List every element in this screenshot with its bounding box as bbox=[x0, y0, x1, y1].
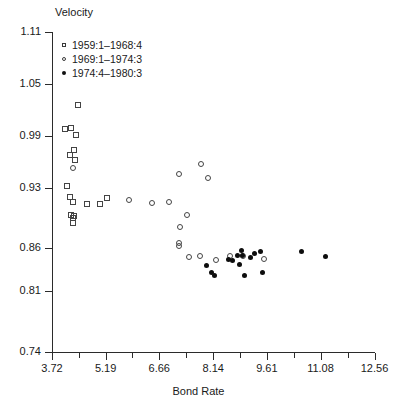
data-point bbox=[70, 220, 76, 226]
data-point bbox=[197, 253, 203, 259]
data-point bbox=[177, 224, 183, 230]
y-axis-line bbox=[52, 32, 53, 353]
x-axis-tick-label: 3.72 bbox=[41, 362, 62, 374]
data-point bbox=[252, 251, 257, 256]
data-point bbox=[84, 201, 90, 207]
data-point bbox=[237, 262, 242, 267]
legend-item: 1959:1–1968:4 bbox=[58, 39, 142, 51]
data-point bbox=[230, 258, 235, 263]
data-point bbox=[198, 161, 204, 167]
y-axis-tick-label: 1.05 bbox=[20, 77, 41, 89]
data-point bbox=[72, 157, 78, 163]
y-axis-tick-label: 0.81 bbox=[20, 284, 41, 296]
legend-item-label: 1959:1–1968:4 bbox=[72, 39, 142, 51]
data-point bbox=[240, 253, 245, 258]
open-square-icon bbox=[58, 43, 70, 47]
y-axis-tick-label: 0.74 bbox=[20, 345, 41, 357]
data-point bbox=[126, 197, 132, 203]
data-point bbox=[260, 270, 265, 275]
data-point bbox=[176, 243, 182, 249]
x-axis-title: Bond Rate bbox=[0, 385, 397, 397]
x-axis-tick: 9.61 bbox=[267, 353, 268, 360]
data-point bbox=[64, 183, 70, 189]
data-point bbox=[70, 165, 76, 171]
data-point bbox=[204, 263, 209, 268]
x-axis-minor-tick bbox=[294, 353, 295, 358]
x-axis-tick-label: 8.14 bbox=[203, 362, 224, 374]
y-axis-tick: 0.81 bbox=[45, 291, 52, 292]
x-axis-minor-tick bbox=[348, 353, 349, 358]
x-axis-tick-label: 12.56 bbox=[361, 362, 389, 374]
x-axis-tick: 11.08 bbox=[321, 353, 322, 360]
x-axis-minor-tick bbox=[186, 353, 187, 358]
data-point bbox=[166, 199, 172, 205]
y-axis-tick: 1.11 bbox=[45, 32, 52, 33]
data-point bbox=[248, 255, 253, 260]
data-point bbox=[97, 201, 103, 207]
data-point bbox=[242, 273, 247, 278]
chart-legend: 1959:1–1968:4 1969:1–1974:3 1974:4–1980:… bbox=[58, 39, 142, 81]
data-point bbox=[75, 102, 81, 108]
data-point bbox=[323, 254, 328, 259]
x-axis-minor-tick bbox=[132, 353, 133, 358]
data-point bbox=[149, 200, 155, 206]
data-point bbox=[235, 253, 240, 258]
open-circle-icon bbox=[58, 57, 70, 61]
legend-item: 1974:4–1980:3 bbox=[58, 67, 142, 79]
filled-circle-icon bbox=[58, 71, 70, 75]
data-point bbox=[71, 147, 77, 153]
legend-item-label: 1974:4–1980:3 bbox=[72, 67, 142, 79]
x-axis-tick-label: 9.61 bbox=[256, 362, 277, 374]
y-axis-tick: 0.86 bbox=[45, 248, 52, 249]
x-axis-tick: 12.56 bbox=[375, 353, 376, 360]
y-axis-tick: 0.74 bbox=[45, 352, 52, 353]
x-axis-tick-label: 5.19 bbox=[95, 362, 116, 374]
data-point bbox=[184, 212, 190, 218]
y-axis-tick: 0.93 bbox=[45, 188, 52, 189]
data-point bbox=[73, 132, 79, 138]
y-axis-tick-label: 0.99 bbox=[20, 129, 41, 141]
data-point bbox=[70, 199, 76, 205]
x-axis-minor-tick bbox=[79, 353, 80, 358]
y-axis-tick: 1.05 bbox=[45, 84, 52, 85]
x-axis-tick: 3.72 bbox=[52, 353, 53, 360]
data-point bbox=[212, 273, 217, 278]
y-axis-tick: 0.99 bbox=[45, 136, 52, 137]
y-axis-title: Velocity bbox=[55, 6, 93, 19]
data-point bbox=[258, 249, 263, 254]
x-axis-tick: 5.19 bbox=[106, 353, 107, 360]
data-point bbox=[299, 249, 304, 254]
x-axis-tick-label: 11.08 bbox=[307, 362, 334, 374]
x-axis-tick: 6.66 bbox=[159, 353, 160, 360]
y-axis-tick-label: 0.93 bbox=[20, 181, 41, 193]
legend-item: 1969:1–1974:3 bbox=[58, 53, 142, 65]
data-point bbox=[68, 125, 74, 131]
y-axis-tick-label: 1.11 bbox=[20, 25, 41, 37]
data-point bbox=[71, 213, 77, 219]
legend-item-label: 1969:1–1974:3 bbox=[72, 53, 142, 65]
x-axis-tick: 8.14 bbox=[213, 353, 214, 360]
data-point bbox=[261, 256, 267, 262]
data-point bbox=[186, 254, 192, 260]
x-axis-tick-label: 6.66 bbox=[149, 362, 170, 374]
data-point bbox=[205, 175, 211, 181]
data-point bbox=[213, 257, 219, 263]
x-axis-minor-tick bbox=[240, 353, 241, 358]
y-axis-tick-label: 0.86 bbox=[20, 241, 41, 253]
scatter-chart: Velocity 1.111.050.990.930.860.810.74 3.… bbox=[0, 0, 397, 408]
data-point bbox=[104, 195, 110, 201]
data-point bbox=[176, 171, 182, 177]
